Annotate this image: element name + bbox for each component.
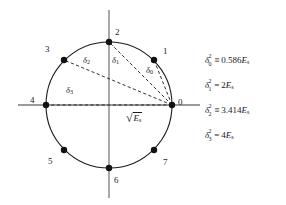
sqrt-icon: √ [126, 113, 133, 123]
constellation-point-1 [151, 57, 157, 63]
delta-2-label: δ2 [83, 56, 90, 67]
constellation-point-2 [106, 39, 112, 45]
delta-0-line [154, 60, 172, 105]
delta-symbol: δ21 [205, 80, 209, 90]
delta-0-label: δ0 [146, 66, 153, 77]
equation-delta0: δ20≡0.586Es [205, 55, 286, 67]
delta-3-label: δ3 [66, 86, 73, 97]
radius-sqrt-es-label: √Es [126, 112, 142, 125]
relation-operator: ≡ [214, 55, 219, 65]
symbol-energy: Es [226, 130, 234, 140]
point-label-6: 6 [114, 176, 119, 185]
relation-operator: = [214, 130, 219, 140]
point-label-2: 2 [115, 28, 120, 37]
delta-2-line [64, 60, 172, 105]
delta-symbol: δ22 [205, 105, 209, 115]
distance-equations-list: δ20≡0.586Esδ21=2Esδ22≡3.414Esδ23=4Es [205, 55, 286, 155]
coefficient: 0.586 [221, 55, 241, 65]
equation-delta2: δ22≡3.414Es [205, 105, 286, 117]
psk-constellation-figure: 01234567 δ0δ1δ2δ3 √Es δ20≡0.586Esδ21=2Es… [0, 0, 286, 205]
constellation-point-7 [151, 147, 157, 153]
relation-operator: ≡ [214, 105, 219, 115]
coefficient: 3.414 [221, 105, 241, 115]
delta-symbol: δ20 [205, 55, 209, 65]
radicand: Es [133, 112, 143, 125]
constellation-point-6 [106, 165, 112, 171]
point-label-7: 7 [163, 158, 168, 167]
constellation-point-3 [61, 57, 67, 63]
constellation-point-5 [61, 147, 67, 153]
delta-1-label: δ1 [112, 56, 119, 67]
constellation-point-4 [43, 102, 49, 108]
equation-delta1: δ21=2Es [205, 80, 286, 92]
point-label-3: 3 [45, 45, 50, 54]
symbol-energy: Es [226, 80, 234, 90]
equation-delta3: δ23=4Es [205, 130, 286, 142]
point-label-1: 1 [163, 47, 168, 56]
symbol-energy: Es [242, 105, 250, 115]
constellation-point-0 [169, 102, 175, 108]
point-label-4: 4 [30, 96, 35, 105]
point-label-5: 5 [48, 157, 53, 166]
delta-symbol: δ23 [205, 130, 209, 140]
point-label-0: 0 [178, 98, 183, 107]
symbol-energy: Es [242, 55, 250, 65]
relation-operator: = [214, 80, 219, 90]
